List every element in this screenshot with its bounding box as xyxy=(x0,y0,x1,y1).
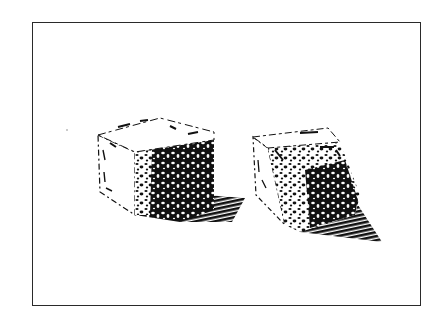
illustration xyxy=(0,0,444,325)
right-cube xyxy=(253,128,382,242)
left-cube xyxy=(98,118,245,222)
stray-mark xyxy=(66,129,68,131)
